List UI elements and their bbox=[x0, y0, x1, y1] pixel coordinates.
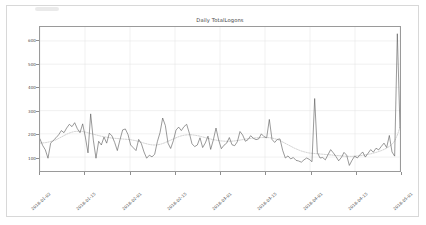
chart-title: Daily TotalLogons bbox=[39, 17, 401, 23]
screenshot-root: Daily TotalLogons 100200300400500600 201… bbox=[0, 0, 426, 225]
y-axis-tick-label: 600 bbox=[28, 38, 36, 43]
x-axis-tick-label: 2018-01-15 bbox=[93, 175, 114, 195]
grid-lines-vertical bbox=[40, 27, 400, 171]
x-axis-tick-mark bbox=[401, 172, 402, 175]
x-axis-tick-label: 2018-03-01 bbox=[229, 175, 250, 195]
x-axis-tick-label: 2018-04-01 bbox=[320, 175, 341, 195]
plot-svg bbox=[40, 27, 400, 171]
x-axis-tick-label: 2018-01-02 bbox=[48, 175, 69, 195]
y-axis-tick-labels: 100200300400500600 bbox=[7, 26, 36, 172]
chart-card: Daily TotalLogons 100200300400500600 201… bbox=[6, 5, 419, 217]
x-axis-tick-label: 2018-02-01 bbox=[139, 175, 160, 195]
y-axis-tick-label: 300 bbox=[28, 108, 36, 113]
plot-area bbox=[39, 26, 401, 172]
y-axis-tick-label: 200 bbox=[28, 132, 36, 137]
chart-figure: Daily TotalLogons 100200300400500600 201… bbox=[7, 6, 420, 218]
x-axis-tick-label: 2018-05-01 bbox=[410, 175, 426, 195]
y-axis-tick-label: 400 bbox=[28, 85, 36, 90]
y-axis-tick-label: 500 bbox=[28, 61, 36, 66]
y-axis-tick-label: 100 bbox=[28, 155, 36, 160]
x-axis-tick-label: 2018-04-15 bbox=[365, 175, 386, 195]
x-axis-tick-label: 2018-03-15 bbox=[274, 175, 295, 195]
x-axis-tick-label: 2018-02-15 bbox=[184, 175, 205, 195]
x-axis-tick-labels: 2018-01-022018-01-152018-02-012018-02-15… bbox=[39, 175, 401, 215]
